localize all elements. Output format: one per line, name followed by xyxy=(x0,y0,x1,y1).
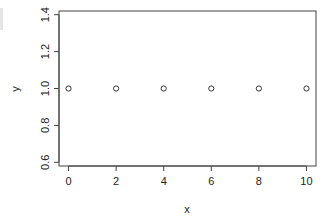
x-tick-label: 2 xyxy=(113,175,119,187)
data-points xyxy=(66,86,309,91)
data-point xyxy=(114,86,119,91)
data-point xyxy=(256,86,261,91)
x-tick-label: 4 xyxy=(161,175,167,187)
data-point xyxy=(209,86,214,91)
data-point xyxy=(66,86,71,91)
data-point xyxy=(304,86,309,91)
x-axis: 0246810 xyxy=(65,166,312,187)
x-tick-label: 10 xyxy=(300,175,312,187)
plot-frame xyxy=(59,11,316,166)
y-tick-label: 1.4 xyxy=(39,7,51,22)
x-tick-label: 6 xyxy=(208,175,214,187)
y-axis-label: y xyxy=(9,86,21,92)
y-tick-label: 0.8 xyxy=(39,118,51,133)
y-tick-label: 0.6 xyxy=(39,155,51,170)
y-axis: 0.60.81.01.21.4 xyxy=(39,7,59,170)
x-tick-label: 0 xyxy=(65,175,71,187)
scatter-plot: 0246810 0.60.81.01.21.4 x y xyxy=(0,0,325,220)
y-tick-label: 1.2 xyxy=(39,44,51,59)
x-tick-label: 8 xyxy=(256,175,262,187)
y-tick-label: 1.0 xyxy=(39,81,51,96)
x-axis-label: x xyxy=(184,203,190,215)
data-point xyxy=(161,86,166,91)
